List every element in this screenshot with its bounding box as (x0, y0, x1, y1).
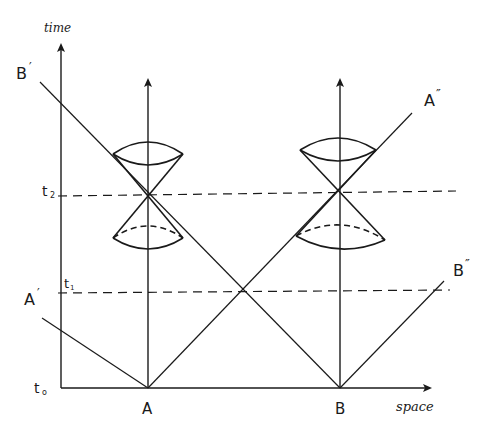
tick-t1: t 1 (64, 276, 74, 292)
svg-text:2: 2 (50, 191, 55, 200)
tick-t0: t o (34, 380, 47, 397)
svg-text:′: ′ (37, 286, 40, 300)
svg-text:t: t (34, 380, 40, 396)
svg-text:t: t (42, 183, 48, 199)
svg-text:′: ′ (29, 60, 32, 74)
b-prime-label: B ′ (16, 60, 32, 83)
svg-text:″: ″ (465, 256, 470, 271)
a-prime-label: A ′ (24, 286, 40, 309)
svg-text:B: B (16, 64, 27, 83)
light-ray-b-double-prime (340, 281, 444, 388)
b-double-prime-label: B ″ (453, 256, 470, 280)
time-axis-label: time (44, 21, 71, 35)
svg-text:1: 1 (70, 284, 74, 292)
a-double-prime-label: A ″ (424, 86, 441, 110)
svg-text:B: B (453, 261, 464, 280)
svg-text:″: ″ (436, 86, 441, 101)
light-ray-a-prime (42, 318, 148, 388)
svg-text:A: A (24, 290, 35, 309)
svg-text:o: o (42, 388, 47, 397)
svg-text:t: t (64, 276, 69, 291)
tick-t2: t 2 (42, 183, 55, 200)
point-b-label: B (335, 400, 345, 418)
t1-simultaneity-line (58, 290, 450, 293)
svg-text:A: A (424, 91, 435, 110)
space-axis-label: space (396, 399, 434, 414)
point-a-label: A (142, 400, 153, 418)
t2-simultaneity-line (58, 191, 456, 196)
spacetime-diagram: time space t o t 1 t 2 A B B ′ A ′ A ″ B… (0, 0, 487, 434)
